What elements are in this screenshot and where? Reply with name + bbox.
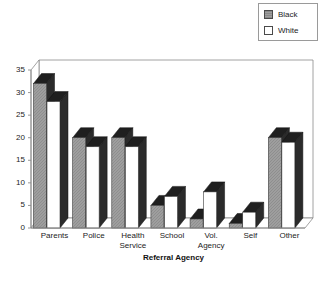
bar	[86, 137, 107, 228]
y-tick-label: 15	[9, 156, 25, 164]
y-tick-label: 35	[9, 66, 25, 74]
legend-label-white: White	[278, 26, 298, 35]
y-tick-label: 25	[9, 111, 25, 119]
bar	[204, 182, 225, 228]
bar	[164, 186, 185, 228]
legend-swatch-black-icon	[264, 10, 273, 19]
legend-swatch-white-icon	[264, 26, 273, 35]
legend-label-black: Black	[278, 10, 298, 19]
x-category-label: Other	[261, 231, 317, 241]
y-tick-label: 10	[9, 179, 25, 187]
plot-area: 05101520253035	[0, 54, 325, 244]
legend-item-black: Black	[264, 9, 298, 20]
y-tick-label: 20	[9, 134, 25, 142]
bar	[125, 137, 146, 228]
bar	[282, 132, 303, 228]
legend-item-white: White	[264, 25, 298, 36]
chart-legend: Black White	[258, 3, 318, 41]
bar-chart-svg	[0, 54, 325, 244]
x-axis-title: Referral Agency	[0, 253, 325, 262]
bar	[47, 92, 68, 228]
y-tick-label: 30	[9, 89, 25, 97]
y-tick-label: 5	[9, 201, 25, 209]
chart-screenshot: Black White 05101520253035 ParentsPolice…	[0, 0, 325, 286]
